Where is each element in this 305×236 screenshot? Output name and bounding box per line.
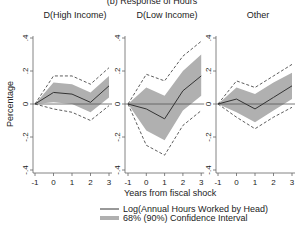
y-tick-label: .4 [204,34,213,41]
panel-1: D(High Income).4.20-.2-.4-10123 [21,10,112,187]
panel-title: D(High Income) [43,10,106,20]
y-tick-label: 0 [113,101,122,106]
x-tick-label: 0 [144,178,149,187]
x-axis-label: Years from fiscal shock [124,188,217,198]
legend-band-swatch [100,216,119,220]
x-tick-label: 0 [51,178,56,187]
y-tick-label: 0 [204,101,213,106]
y-tick-label: -.4 [21,165,30,175]
x-tick-label: 0 [234,178,239,187]
x-tick-label: 2 [271,178,276,187]
figure-title: (b) Response of Hours [107,0,198,6]
x-tick-label: -1 [31,178,39,187]
y-tick-label: .4 [21,34,30,41]
x-tick-label: 2 [181,178,186,187]
y-tick-label: -.2 [21,132,30,142]
panel-3: Other.4.20-.2-.4-10123 [204,10,295,187]
x-tick-label: 3 [107,178,112,187]
y-tick-label: .2 [113,67,122,74]
x-tick-label: 1 [70,178,75,187]
x-tick-label: 1 [162,178,167,187]
x-tick-label: 2 [88,178,93,187]
panel-title: D(Low Income) [136,10,197,20]
ci68-band [218,73,292,123]
ci90-lower [35,104,109,121]
x-tick-label: 1 [253,178,258,187]
legend-label-band: 68% (90%) Confidence Interval [123,213,248,223]
x-tick-label: -1 [124,178,132,187]
y-tick-label: -.2 [204,132,213,142]
y-tick-label: -.2 [113,132,122,142]
y-tick-label: .4 [113,34,122,41]
y-tick-label: -.4 [113,165,122,175]
panels: D(High Income).4.20-.2-.4-10123D(Low Inc… [21,10,295,187]
irf-chart: (b) Response of Hours Percentage D(High … [0,0,305,236]
x-tick-label: 3 [290,178,295,187]
y-tick-label: .2 [21,67,30,74]
legend: Log(Annual Hours Worked by Head) 68% (90… [100,204,268,223]
y-tick-label: .2 [204,67,213,74]
y-tick-label: 0 [21,101,30,106]
panel-2: D(Low Income).4.20-.2-.4-10123 [113,10,204,187]
y-tick-label: -.4 [204,165,213,175]
panel-title: Other [247,10,270,20]
x-tick-label: -1 [214,178,222,187]
ci68-band [128,55,201,141]
y-axis-label: Percentage [5,81,15,127]
x-tick-label: 3 [199,178,204,187]
